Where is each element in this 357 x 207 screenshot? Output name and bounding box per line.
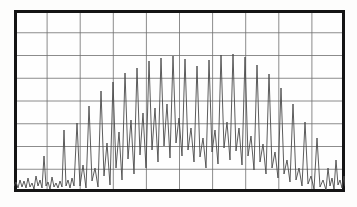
graticule-grid <box>14 10 345 192</box>
grid-lines-group <box>14 10 345 192</box>
waveform-display-panel[interactable] <box>14 10 345 192</box>
screenshot-root <box>0 0 357 207</box>
